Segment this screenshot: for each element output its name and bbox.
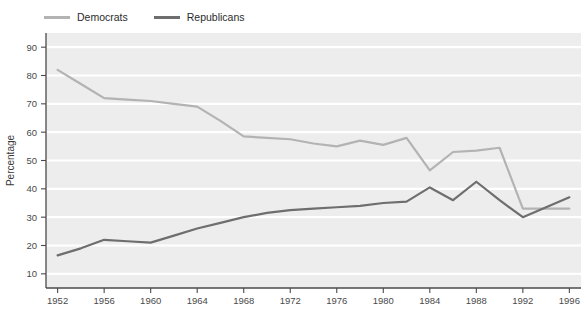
y-axis-tick-label: 60 [26, 127, 37, 138]
x-axis-tick-label: 1980 [373, 295, 394, 306]
y-axis-tick-label: 30 [26, 212, 37, 223]
x-axis-tick-label: 1972 [280, 295, 301, 306]
y-axis-tick-label: 40 [26, 183, 37, 194]
y-axis-tick-label: 20 [26, 240, 37, 251]
y-axis-tick-label: 70 [26, 98, 37, 109]
x-axis-tick-label: 1992 [512, 295, 533, 306]
y-axis-tick-label: 90 [26, 42, 37, 53]
x-axis-tick-label: 1984 [419, 295, 440, 306]
x-axis-tick-label: 1952 [47, 295, 68, 306]
y-axis-tick-label: 80 [26, 70, 37, 81]
y-axis-tick-label: 10 [26, 268, 37, 279]
line-chart: Democrats Republicans 102030405060708090… [0, 0, 587, 319]
x-axis-tick-label: 1960 [140, 295, 161, 306]
x-axis-tick-label: 1968 [233, 295, 254, 306]
y-axis-tick-label: 50 [26, 155, 37, 166]
x-axis-tick-label: 1976 [326, 295, 347, 306]
x-axis-tick-label: 1956 [94, 295, 115, 306]
plot-area: 102030405060708090Percentage195219561960… [0, 0, 587, 319]
x-axis-tick-label: 1964 [187, 295, 208, 306]
y-axis-title: Percentage [5, 134, 16, 186]
x-axis-tick-label: 1996 [559, 295, 580, 306]
x-axis-tick-label: 1988 [466, 295, 487, 306]
